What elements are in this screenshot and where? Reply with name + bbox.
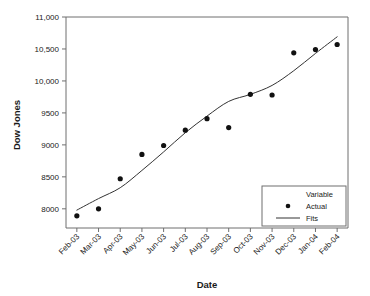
data-point [291,50,296,55]
legend-marker-dot [286,204,291,209]
dow-jones-scatter-chart: 800085009000950010,00010,50011,000 Feb-0… [0,0,370,296]
data-point [183,128,188,133]
y-tick-label: 8000 [41,205,59,214]
chart-legend: Variable Actual Fits [262,186,346,226]
y-axis-tick-labels: 800085009000950010,00010,50011,000 [35,13,60,214]
x-tick-label: Aug-03 [187,232,212,257]
x-tick-label: Feb-03 [57,232,82,257]
x-tick-label: Nov-03 [252,232,277,257]
y-tick-label: 9500 [41,109,59,118]
x-tick-label: Jan-04 [296,232,320,256]
legend-box [262,186,346,226]
data-point [74,213,79,218]
data-point [96,206,101,211]
data-point [226,125,231,130]
data-point [335,42,340,47]
data-point [118,176,123,181]
data-point [139,152,144,157]
x-tick-label: Feb-04 [317,232,342,257]
y-tick-label: 10,000 [35,77,60,86]
data-point [161,143,166,148]
y-axis-title: Dow Jones [11,100,22,150]
legend-item-actual: Actual [306,202,327,211]
data-point [248,92,253,97]
x-axis-title: Date [197,279,218,290]
data-point [204,116,209,121]
x-tick-label: Oct-03 [231,232,255,256]
x-axis-tick-labels: Feb-03Mar-03Apr-03May-03Jun-03Jul-03Aug-… [57,232,342,258]
x-tick-label: Mar-03 [79,232,104,257]
y-tick-label: 10,500 [35,45,60,54]
x-tick-label: Sep-03 [209,232,234,257]
legend-title: Variable [306,190,333,199]
x-tick-label: May-03 [121,232,147,258]
y-axis-ticks [62,17,66,209]
legend-item-fits: Fits [306,214,318,223]
x-tick-label: Dec-03 [274,232,299,257]
x-axis-ticks [77,228,337,232]
y-tick-label: 11,000 [35,13,59,22]
y-tick-label: 8500 [41,173,59,182]
x-tick-label: Jun-03 [144,232,168,256]
fits-series [77,37,337,210]
chart-container: 800085009000950010,00010,50011,000 Feb-0… [0,0,370,296]
data-point [269,92,274,97]
y-tick-label: 9000 [41,141,59,150]
data-point [313,47,318,52]
